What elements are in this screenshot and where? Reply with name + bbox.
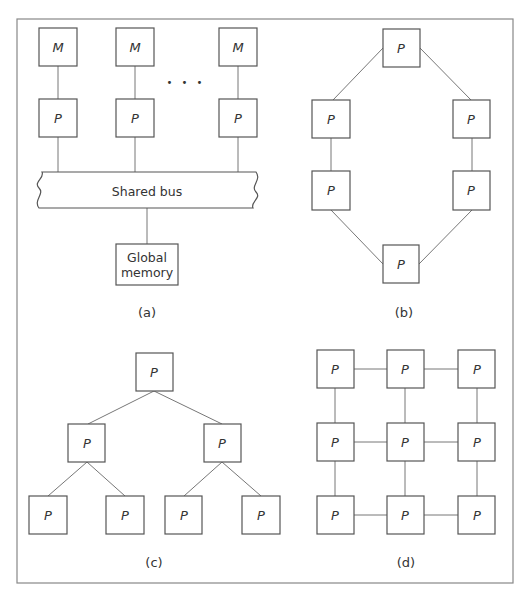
ellipsis: • • • xyxy=(166,77,205,88)
svg-text:P: P xyxy=(397,257,405,272)
svg-text:P: P xyxy=(44,508,52,523)
processor-node: P xyxy=(136,353,173,391)
svg-text:P: P xyxy=(401,362,409,377)
processor-node: P xyxy=(312,100,350,138)
memory-node: M xyxy=(219,28,257,66)
processor-node: P xyxy=(312,171,350,210)
processor-node: P xyxy=(387,350,424,388)
svg-text:P: P xyxy=(467,183,475,198)
panel-b-ring: P P P P P P (b) xyxy=(312,29,490,320)
svg-text:P: P xyxy=(331,362,339,377)
svg-text:P: P xyxy=(327,112,335,127)
processor-node: P xyxy=(29,496,67,534)
edge xyxy=(331,210,383,264)
edge xyxy=(88,391,154,424)
global-memory: Global memory xyxy=(116,244,178,285)
panel-caption: (d) xyxy=(397,555,415,570)
processor-node: P xyxy=(116,99,154,137)
edge xyxy=(222,462,261,496)
svg-text:M: M xyxy=(129,40,140,55)
processor-node: P xyxy=(317,350,354,388)
svg-text:P: P xyxy=(150,365,158,380)
processor-node: P xyxy=(383,245,419,283)
svg-text:P: P xyxy=(257,508,265,523)
svg-text:M: M xyxy=(232,40,243,55)
panel-d-mesh: P P P P P P P P P (d) xyxy=(317,350,495,570)
svg-text:memory: memory xyxy=(121,265,174,280)
edge xyxy=(420,48,471,100)
svg-text:P: P xyxy=(327,183,335,198)
processor-node: P xyxy=(39,99,77,137)
processor-node: P xyxy=(317,496,354,534)
shared-bus: Shared bus xyxy=(37,172,257,208)
processor-node: P xyxy=(317,423,354,461)
svg-text:P: P xyxy=(473,362,481,377)
panel-caption: (c) xyxy=(145,555,162,570)
processor-node: P xyxy=(219,99,257,137)
panel-caption: (b) xyxy=(395,305,413,320)
svg-text:Global: Global xyxy=(127,250,167,265)
svg-text:P: P xyxy=(467,112,475,127)
processor-node: P xyxy=(383,29,420,67)
panel-c-tree: P P P P P P P (c) xyxy=(29,353,280,570)
processor-node: P xyxy=(204,424,241,462)
processor-node: P xyxy=(387,423,424,461)
processor-node: P xyxy=(165,496,202,534)
edge xyxy=(48,462,87,496)
edge xyxy=(87,462,125,496)
processor-node: P xyxy=(458,496,495,534)
svg-text:P: P xyxy=(331,435,339,450)
processor-node: P xyxy=(68,424,105,462)
svg-text:P: P xyxy=(131,111,139,126)
memory-node: M xyxy=(116,28,154,66)
figure-canvas: M M M • • • P P P Shared bus xyxy=(0,0,529,603)
edge xyxy=(419,210,472,264)
svg-text:P: P xyxy=(54,111,62,126)
memory-node: M xyxy=(39,28,77,66)
processor-node: P xyxy=(453,171,490,210)
processor-node: P xyxy=(453,100,490,138)
svg-text:P: P xyxy=(121,508,129,523)
processor-node: P xyxy=(458,350,495,388)
svg-text:P: P xyxy=(397,41,405,56)
edge xyxy=(154,391,222,424)
svg-text:P: P xyxy=(83,436,91,451)
svg-text:P: P xyxy=(473,435,481,450)
processor-node: P xyxy=(387,496,424,534)
svg-text:P: P xyxy=(401,435,409,450)
edge xyxy=(333,48,383,100)
svg-text:P: P xyxy=(331,508,339,523)
svg-text:P: P xyxy=(234,111,242,126)
processor-node: P xyxy=(242,496,280,534)
svg-text:P: P xyxy=(180,508,188,523)
edge xyxy=(184,462,222,496)
processor-node: P xyxy=(106,496,144,534)
svg-text:M: M xyxy=(52,40,63,55)
panel-a-shared-bus: M M M • • • P P P Shared bus xyxy=(37,28,257,320)
processor-node: P xyxy=(458,423,495,461)
svg-text:P: P xyxy=(473,508,481,523)
panel-caption: (a) xyxy=(138,305,156,320)
bus-label: Shared bus xyxy=(112,184,182,199)
svg-text:P: P xyxy=(218,436,226,451)
svg-text:P: P xyxy=(401,508,409,523)
